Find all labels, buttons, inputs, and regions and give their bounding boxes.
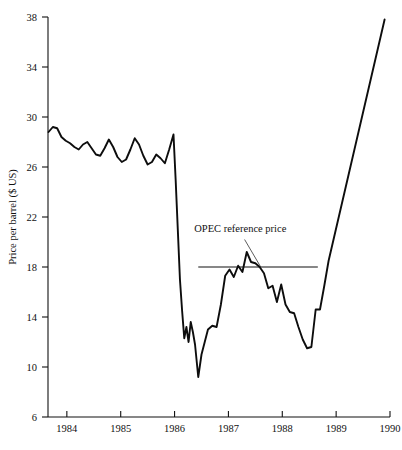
y-axis-tick-labels: 61014182226303438 <box>27 12 38 423</box>
x-tick-label: 1986 <box>164 423 185 434</box>
line-chart: 61014182226303438 1984198519861987198819… <box>0 0 402 450</box>
y-tick-label: 14 <box>27 312 38 323</box>
x-tick-label: 1985 <box>110 423 131 434</box>
clipped-page-text-bottom <box>0 440 402 450</box>
y-tick-label: 6 <box>32 412 37 423</box>
x-tick-label: 1990 <box>380 423 401 434</box>
y-tick-label: 10 <box>27 362 38 373</box>
y-axis-ticks <box>42 17 48 417</box>
oil-price-figure: 61014182226303438 1984198519861987198819… <box>0 0 402 450</box>
y-tick-label: 26 <box>27 162 38 173</box>
x-tick-label: 1989 <box>326 423 347 434</box>
y-tick-label: 30 <box>27 112 38 123</box>
x-tick-label: 1984 <box>56 423 78 434</box>
x-axis-tick-labels: 1984198519861987198819891990 <box>56 423 400 434</box>
x-axis-ticks <box>67 411 390 417</box>
y-tick-label: 38 <box>27 12 38 23</box>
opec-annotation-label: OPEC reference price <box>194 223 286 234</box>
x-tick-label: 1988 <box>272 423 293 434</box>
price-series-line <box>49 20 385 378</box>
y-tick-label: 18 <box>27 262 38 273</box>
y-axis-title: Price per barrel ($ US) <box>7 169 19 265</box>
y-tick-label: 22 <box>27 212 38 223</box>
x-tick-label: 1987 <box>218 423 239 434</box>
clipped-page-text-top <box>0 0 402 11</box>
y-tick-label: 34 <box>27 62 38 73</box>
